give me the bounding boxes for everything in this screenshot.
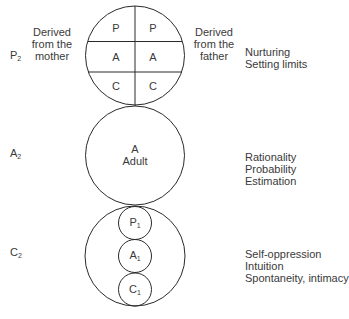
cell-left-a: A	[106, 51, 126, 63]
inner-label-c1: C1	[125, 283, 145, 296]
cell-right-c: C	[143, 80, 163, 92]
mother-caption: Derived from the mother	[22, 26, 82, 62]
parent-circle	[86, 6, 185, 106]
label-p2: P2	[10, 49, 21, 62]
adult-description: Rationality Probability Estimation	[245, 151, 296, 187]
cell-left-p: P	[106, 22, 126, 34]
inner-label-p1: P1	[125, 216, 145, 229]
label-a2: A2	[10, 147, 21, 160]
cell-left-c: C	[106, 80, 126, 92]
adult-label: A Adult	[105, 143, 165, 167]
parent-description: Nurturing Setting limits	[245, 46, 307, 70]
child-description: Self-oppression Intuition Spontaneity, i…	[245, 248, 349, 284]
label-c2: C2	[10, 246, 22, 259]
inner-label-a1: A1	[125, 249, 145, 262]
cell-right-p: P	[143, 22, 163, 34]
father-caption: Derived from the father	[184, 26, 244, 62]
cell-right-a: A	[143, 51, 163, 63]
